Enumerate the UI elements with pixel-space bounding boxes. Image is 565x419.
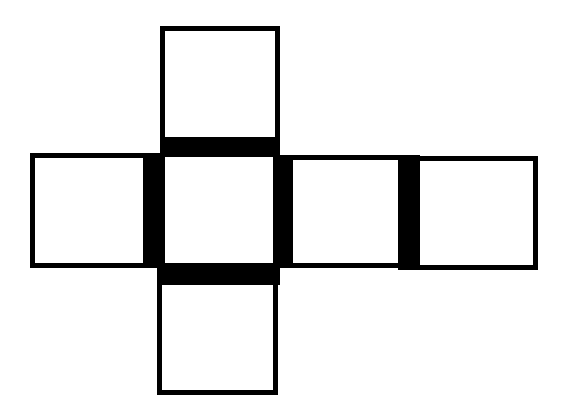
fold-band-top-center xyxy=(162,137,278,157)
fold-band-center-bottom xyxy=(159,263,277,285)
fold-band-center-right xyxy=(273,155,293,268)
fold-band-right-farright xyxy=(398,156,420,268)
fold-band-left-center xyxy=(143,153,163,267)
